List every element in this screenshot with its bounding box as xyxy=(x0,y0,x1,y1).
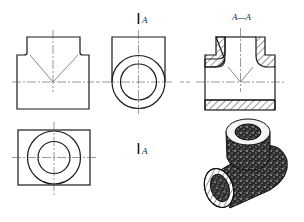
section-marker-top: A xyxy=(139,13,149,25)
section-view xyxy=(196,28,284,110)
section-hatch-bottom xyxy=(205,100,275,110)
isometric-view xyxy=(200,119,288,211)
top-view xyxy=(12,122,96,196)
front-view xyxy=(12,30,94,109)
iso-branch-opening xyxy=(235,124,261,140)
section-marker-bottom: A xyxy=(139,143,149,156)
front-view-intersection-left xyxy=(30,55,53,82)
technical-drawing: A A A—A xyxy=(0,0,304,222)
side-view xyxy=(106,30,172,115)
section-marker-bottom-label: A xyxy=(141,146,148,156)
section-title: A—A xyxy=(231,12,252,22)
front-view-intersection-right xyxy=(53,55,78,82)
section-marker-top-label: A xyxy=(141,15,148,25)
